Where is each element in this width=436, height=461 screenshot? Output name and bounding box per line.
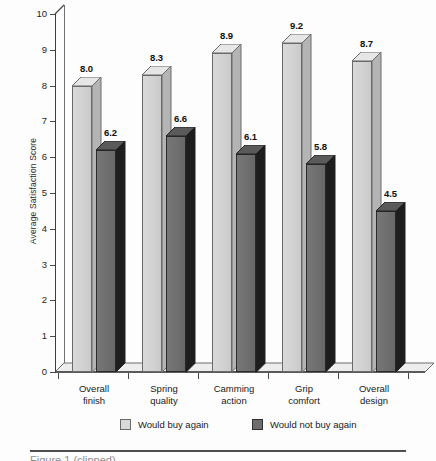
bar-value-label: 9.2	[280, 20, 314, 31]
category-label-line: quality	[125, 395, 203, 407]
footer-divider	[30, 450, 406, 452]
bar-dark	[306, 155, 335, 372]
bar-value-label: 5.8	[304, 141, 338, 152]
y-axis-tick-label: 4	[27, 224, 47, 234]
chart-plot-area: Average Satisfaction Score 012345678910 …	[0, 0, 436, 400]
x-axis-category-label: Gripcomfort	[265, 383, 343, 406]
bar-3d-shape	[306, 155, 337, 374]
legend-swatch-icon	[120, 419, 131, 430]
category-label-line: Spring	[125, 383, 203, 395]
bar-dark	[236, 145, 265, 372]
figure-caption: Figure 1 (clipped)	[30, 454, 430, 461]
y-axis-tick-label: 2	[27, 295, 47, 305]
y-axis-depth-line	[64, 5, 65, 364]
y-axis-3d-cap	[55, 5, 69, 19]
y-axis-tick-label: 10	[27, 9, 47, 19]
x-axis-tick-mark	[268, 373, 269, 379]
figure-container: Average Satisfaction Score 012345678910 …	[0, 0, 436, 461]
x-axis-tick-mark	[198, 373, 199, 379]
legend-item: Would not buy again	[252, 419, 356, 430]
bar-value-label: 6.1	[234, 131, 268, 142]
y-axis-tick-label: 9	[27, 45, 47, 55]
legend-label: Would buy again	[138, 419, 209, 430]
x-axis-tick-mark	[58, 373, 59, 379]
x-axis-category-label: Overalldesign	[335, 383, 413, 406]
y-axis-line	[55, 14, 56, 373]
category-label-line: action	[195, 395, 273, 407]
x-axis-category-label: Cammingaction	[195, 383, 273, 406]
bar-value-label: 8.0	[70, 63, 104, 74]
bar-value-label: 8.3	[140, 52, 174, 63]
legend-item: Would buy again	[120, 419, 209, 430]
category-label-line: Overall	[335, 383, 413, 395]
bar-dark	[166, 127, 195, 372]
bar-value-label: 4.5	[374, 188, 408, 199]
y-axis-tick-label: 7	[27, 116, 47, 126]
bar-value-label: 6.2	[94, 127, 128, 138]
bar-value-label: 8.9	[210, 30, 244, 41]
y-axis-tick-label: 6	[27, 152, 47, 162]
bar-3d-shape	[376, 202, 407, 374]
bar-3d-shape	[166, 127, 197, 374]
chart-legend: Would buy againWould not buy again	[0, 416, 436, 436]
x-axis-tick-mark	[338, 373, 339, 379]
bar-3d-shape	[96, 141, 127, 374]
x-axis-category-label: Springquality	[125, 383, 203, 406]
category-label-line: Grip	[265, 383, 343, 395]
y-axis-tick-label: 3	[27, 260, 47, 270]
bar-value-label: 6.6	[164, 113, 198, 124]
legend-label: Would not buy again	[270, 419, 356, 430]
y-axis-tick-label: 5	[27, 188, 47, 198]
bar-dark	[376, 202, 405, 372]
x-axis-tick-mark	[408, 373, 409, 379]
x-axis-category-label: Overallfinish	[55, 383, 133, 406]
bar-3d-shape	[236, 145, 267, 374]
category-label-line: finish	[55, 395, 133, 407]
category-label-line: Camming	[195, 383, 273, 395]
x-axis-tick-mark	[128, 373, 129, 379]
y-axis-tick-label: 1	[27, 331, 47, 341]
category-label-line: comfort	[265, 395, 343, 407]
category-label-line: Overall	[55, 383, 133, 395]
bar-dark	[96, 141, 125, 372]
y-axis-tick-label: 8	[27, 81, 47, 91]
legend-swatch-icon	[252, 419, 263, 430]
bar-value-label: 8.7	[350, 38, 384, 49]
category-label-line: design	[335, 395, 413, 407]
